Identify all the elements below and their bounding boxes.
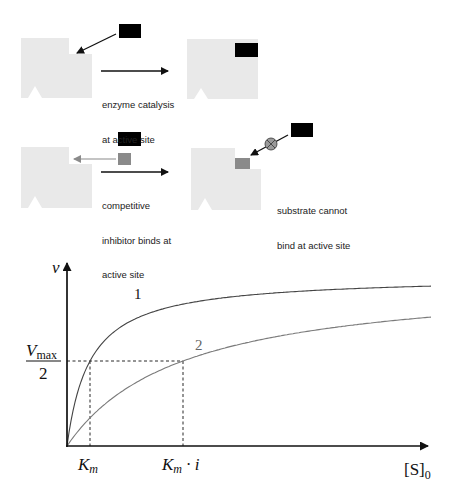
curve-1-uninhibited [67,286,431,446]
curve-2-inhibited [67,317,431,446]
caption-line: substrate cannot [277,205,350,217]
circle-x-icon [265,138,277,150]
blocked-substrate-block [291,123,313,137]
michaelis-menten-chart: v 1 2 Vmax 2 Km Km · i [S]0 [0,230,453,499]
enzyme-inhibitor-complex [191,148,261,210]
caption-line: competitive [102,200,171,212]
caption-line: enzyme catalysis [102,99,174,111]
km-i-label: Km · i [161,455,200,476]
enzyme-substrate-complex [187,39,258,99]
vmax-half-label: Vmax 2 [26,341,61,383]
substrate-approach-arrow [77,34,116,53]
caption-line: at active site [102,134,174,146]
caption-catalysis: enzyme catalysis at active site [102,76,174,157]
enzyme-free [21,38,92,98]
svg-text:2: 2 [39,364,48,383]
inhibition-schematic [0,0,453,230]
enzyme-free-2 [21,147,92,208]
substrate-block [119,24,141,38]
km-label: Km [77,455,98,476]
curve-label-2: 2 [195,337,203,353]
y-axis-label: v [52,258,60,277]
curve-label-1: 1 [134,286,142,302]
x-axis-label: [S]0 [404,460,431,482]
svg-text:Vmax: Vmax [26,341,57,362]
